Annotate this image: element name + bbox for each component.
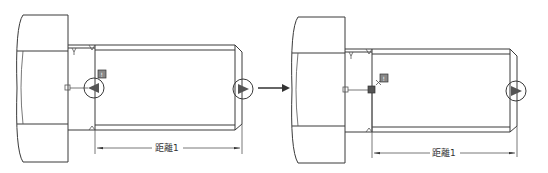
svg-text:!: !	[101, 71, 103, 78]
panel-before: 距離1 !	[17, 15, 253, 162]
arrow-right-icon	[258, 84, 290, 92]
dimension-line[interactable]: 距離1	[97, 142, 240, 153]
bolt-head	[292, 17, 345, 163]
endpoint-marker-end[interactable]	[233, 79, 253, 99]
bolt-head	[17, 15, 68, 162]
snap-point-marker[interactable]: !	[368, 74, 388, 93]
svg-text:!: !	[383, 75, 385, 82]
panel-after: 距離1 !	[292, 17, 526, 163]
dimension-line[interactable]: 距離1	[374, 147, 515, 158]
dimension-label: 距離1	[155, 142, 179, 153]
bolt-dimension-diagram: 距離1 !	[0, 0, 548, 173]
endpoint-marker-end[interactable]	[506, 81, 526, 101]
dimension-label: 距離1	[432, 147, 456, 158]
